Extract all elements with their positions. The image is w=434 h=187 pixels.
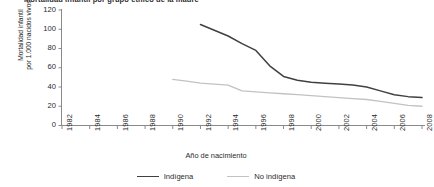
legend-label: Indígena [164, 172, 194, 181]
x-tick-label: 1982 [65, 114, 74, 131]
x-tick-label: 1998 [287, 114, 296, 131]
chart-legend: IndígenaNo indígena [0, 169, 432, 183]
legend-line-swatch [227, 176, 249, 177]
axis-lines [62, 9, 426, 126]
legend-line-swatch [137, 176, 159, 177]
data-series [173, 24, 422, 106]
series-line-indigena [200, 24, 422, 97]
x-axis-label: Año de nacimiento [0, 151, 432, 160]
x-tick-label: 1988 [148, 114, 157, 131]
legend-item[interactable]: Indígena [137, 172, 194, 181]
x-tick-label: 1996 [259, 114, 268, 131]
x-tick-label: 2002 [342, 114, 351, 131]
legend-item[interactable]: No indígena [227, 172, 295, 181]
x-tick-label: 1990 [176, 114, 185, 131]
x-tick-label: 2004 [370, 114, 379, 131]
legend-label: No indígena [254, 172, 295, 181]
x-tick-label: 1986 [121, 114, 130, 131]
x-tick-label: 2000 [314, 114, 323, 131]
x-tick-label: 1994 [231, 114, 240, 131]
x-tick-label: 2006 [398, 114, 407, 131]
x-tick-label: 1992 [204, 114, 213, 131]
x-tick-marks [62, 126, 422, 130]
x-tick-label: 2008 [425, 114, 434, 131]
x-tick-label: 1984 [93, 114, 102, 131]
